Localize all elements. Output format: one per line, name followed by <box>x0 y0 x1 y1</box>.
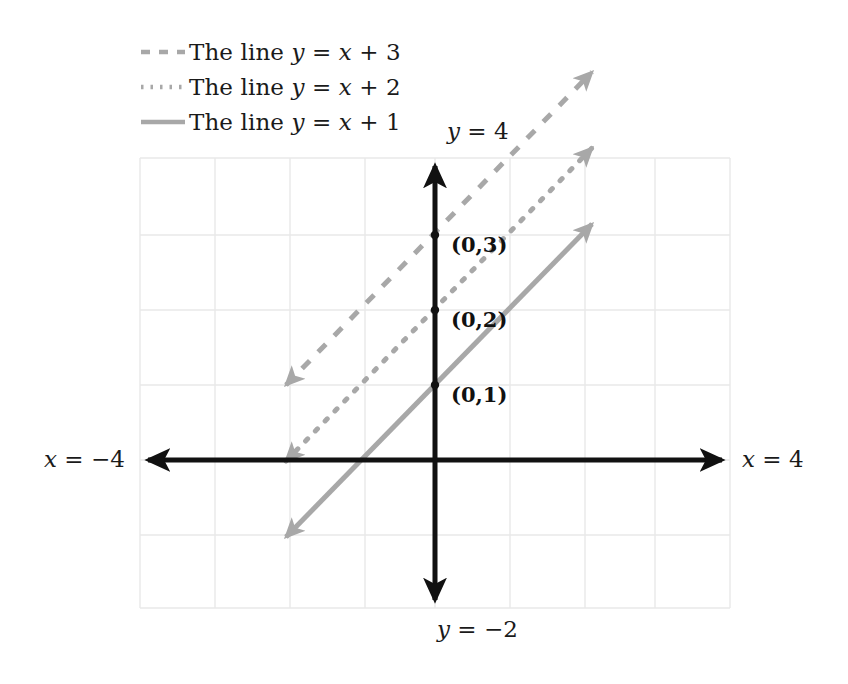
intercept-point-0-1 <box>431 381 439 389</box>
intercept-point-0-2 <box>431 306 439 314</box>
axis-label-x-min: x = −4 <box>44 446 125 472</box>
series-line-y-x-plus-1 <box>286 224 592 537</box>
intercept-point-0-3 <box>431 231 439 239</box>
series-line-y-x-plus-2 <box>286 148 592 461</box>
axis-label-x-max: x = 4 <box>742 446 804 472</box>
point-label-0-3: (0,3) <box>451 232 507 257</box>
axis-label-y-max: y = 4 <box>447 118 509 144</box>
axis-label-y-min: y = −2 <box>437 616 518 642</box>
series-line-y-x-plus-3 <box>286 72 592 385</box>
coordinate-plane <box>0 0 848 684</box>
point-label-0-2: (0,2) <box>451 307 507 332</box>
point-label-0-1: (0,1) <box>451 382 507 407</box>
chart-canvas: The line y = x + 3 The line y = x + 2 Th… <box>0 0 848 684</box>
